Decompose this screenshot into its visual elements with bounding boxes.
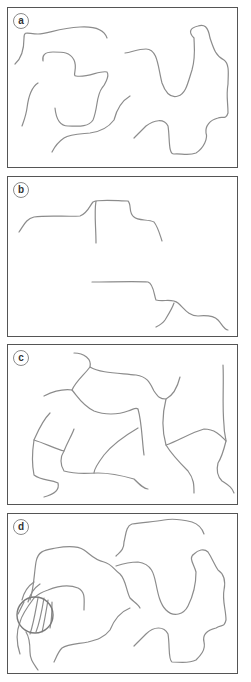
panel-label-b: b [13, 182, 29, 198]
panel-label-d: d [13, 519, 29, 535]
panel-c-drawing [8, 345, 237, 504]
panel-b-drawing [8, 177, 237, 336]
panel-a: a [7, 7, 238, 168]
panel-a-drawing [8, 8, 237, 167]
panel-c: c [7, 344, 238, 505]
panel-label-a: a [13, 13, 29, 29]
panel-b: b [7, 176, 238, 337]
panel-label-c: c [13, 350, 29, 366]
panel-d-drawing [8, 514, 237, 673]
panel-d: d [7, 513, 238, 674]
